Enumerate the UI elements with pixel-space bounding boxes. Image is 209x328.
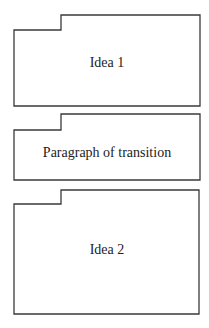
transition-label: Paragraph of transition (14, 145, 200, 161)
diagram-canvas (0, 0, 209, 328)
essay-structure-diagram: Idea 1 Paragraph of transition Idea 2 (0, 0, 209, 328)
idea-2-label: Idea 2 (14, 242, 200, 258)
idea-1-label: Idea 1 (14, 55, 200, 71)
